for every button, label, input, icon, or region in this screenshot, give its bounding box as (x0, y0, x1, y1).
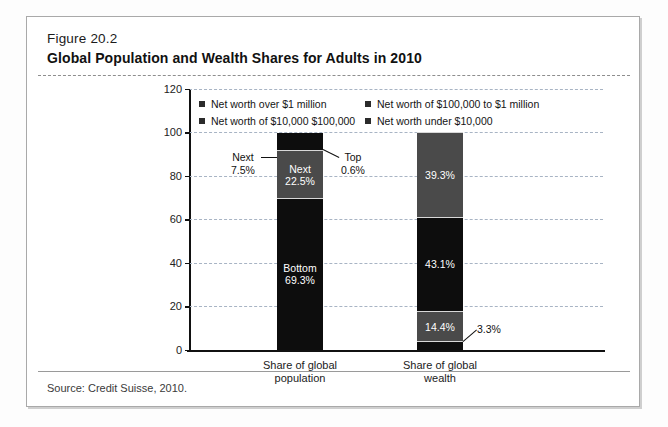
category-label-line-2: wealth (424, 372, 456, 384)
segment-value-label: 22.5% (285, 175, 315, 187)
y-axis-tick-label: 20 (170, 300, 182, 312)
y-axis-tick-label: 0 (176, 344, 182, 356)
title-divider (38, 75, 630, 76)
figure-title: Global Population and Wealth Shares for … (47, 50, 422, 66)
legend-swatch-icon (199, 101, 205, 107)
y-axis-tick-mark (185, 306, 190, 307)
bar-segment: Next22.5% (277, 150, 323, 199)
leader-line-wealth-small (463, 329, 478, 342)
gridline (189, 132, 603, 133)
segment-value-label: 39.3% (425, 169, 455, 181)
segment-value-label: 43.1% (425, 258, 455, 270)
bar-segment-label: Bottom69.3% (283, 262, 316, 286)
legend-item-under-10k: Net worth under $10,000 (365, 115, 525, 127)
gridline (189, 89, 603, 90)
callout-line-1: Next (232, 151, 254, 163)
figure-number: Figure 20.2 (47, 31, 118, 46)
bar-segment-label: 14.4% (425, 321, 455, 333)
bar-segment: 14.4% (417, 311, 463, 342)
callout-line-2: 7.5% (231, 164, 255, 176)
bar-segment-label: 39.3% (425, 169, 455, 181)
gridline (189, 306, 603, 307)
category-label-line-1: Share of global (403, 359, 477, 371)
y-axis-tick-mark (185, 132, 190, 133)
bar-segment: Bottom69.3% (277, 199, 323, 349)
y-axis-tick-label: 120 (164, 83, 182, 95)
legend-swatch-icon (365, 118, 371, 124)
y-axis-tick-mark (185, 263, 190, 264)
x-axis-line (187, 350, 605, 352)
legend-label: Net worth over $1 million (211, 98, 327, 110)
leader-line-next (261, 157, 277, 158)
callout-next-7-5: Next 7.5% (231, 151, 255, 176)
bar-segment: 39.3% (417, 132, 463, 217)
bar-wealth: 39.3%43.1%14.4%Share of globalwealth (417, 132, 463, 349)
legend-swatch-icon (199, 118, 205, 124)
bar-population: Next22.5%Bottom69.3%Share of globalpopul… (277, 133, 323, 350)
bar-segment (277, 134, 323, 150)
category-label-line-2: population (275, 372, 326, 384)
callout-wealth-3-3: 3.3% (477, 323, 501, 336)
gridline (189, 263, 603, 264)
bar-segment (417, 342, 463, 349)
y-axis-tick-mark (185, 89, 190, 90)
y-axis-tick-label: 100 (164, 126, 182, 138)
leader-line-top (323, 149, 339, 158)
legend-swatch-icon (365, 101, 371, 107)
segment-label-line-1: Bottom (283, 262, 316, 274)
legend-label: Net worth under $10,000 (377, 115, 493, 127)
y-axis-tick-mark (185, 350, 190, 351)
legend-item-10k-to-100k: Net worth of $10,000 $100,000 (199, 115, 365, 127)
legend-item-100k-to-1m: Net worth of $100,000 to $1 million (365, 98, 525, 110)
gridline (189, 176, 603, 177)
gridline (189, 219, 603, 220)
category-label-line-1: Share of global (263, 359, 337, 371)
legend-label: Net worth of $100,000 to $1 million (377, 98, 539, 110)
callout-line-2: 0.6% (341, 164, 365, 176)
bar-segment: 43.1% (417, 218, 463, 312)
source-divider (38, 371, 630, 372)
y-axis-tick-label: 60 (170, 213, 182, 225)
y-axis-tick-mark (185, 219, 190, 220)
segment-value-label: 14.4% (425, 321, 455, 333)
legend-label: Net worth of $10,000 $100,000 (211, 115, 355, 127)
y-axis-tick-mark (185, 176, 190, 177)
segment-value-label: 69.3% (283, 274, 316, 286)
source-note: Source: Credit Suisse, 2010. (47, 382, 187, 394)
y-axis-tick-label: 40 (170, 257, 182, 269)
callout-top-0-6: Top 0.6% (341, 151, 365, 176)
bar-segment-label: 43.1% (425, 258, 455, 270)
bar-segment-label: Next22.5% (285, 163, 315, 187)
callout-line-1: Top (345, 151, 362, 163)
legend-item-over-1m: Net worth over $1 million (199, 98, 365, 110)
figure-container: Figure 20.2 Global Population and Wealth… (26, 16, 640, 407)
chart-plot-area: 020406080100120 Net worth over $1 millio… (189, 89, 547, 352)
segment-label-line-1: Next (289, 163, 311, 175)
y-axis-tick-label: 80 (170, 170, 182, 182)
chart-legend: Net worth over $1 million Net worth of $… (199, 95, 525, 129)
